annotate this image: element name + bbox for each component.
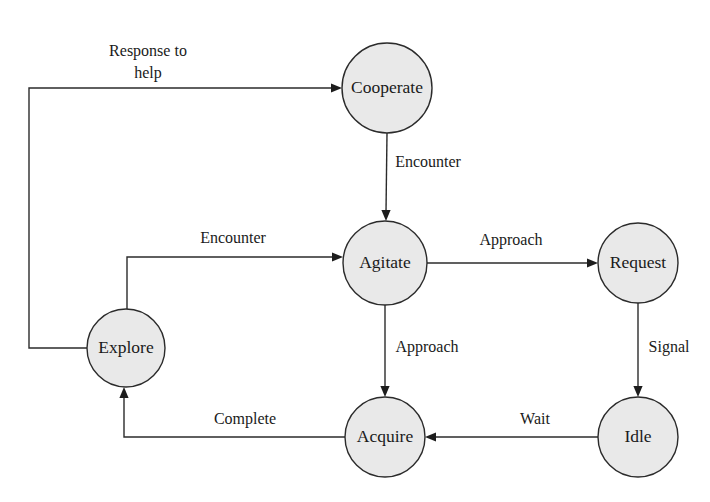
state-transition-diagram: CooperateAgitateRequestExploreAcquireIdl… [0, 0, 710, 502]
state-node-acquire[interactable]: Acquire [345, 397, 425, 477]
arrowhead-icon [587, 258, 598, 267]
arrowhead-icon [633, 386, 642, 397]
edge-label-agitate-to-acquire: Approach [395, 338, 458, 356]
arrowhead-icon [119, 387, 128, 398]
state-node-label-agitate: Agitate [359, 252, 411, 272]
arrowhead-icon [332, 252, 343, 261]
edge-request-to-idle [633, 303, 642, 397]
state-node-idle[interactable]: Idle [598, 397, 678, 477]
state-diagram-canvas: CooperateAgitateRequestExploreAcquireIdl… [0, 0, 710, 502]
arrowhead-icon [380, 386, 389, 397]
state-node-agitate[interactable]: Agitate [343, 221, 427, 305]
edges-layer [29, 83, 643, 441]
edge-label-cooperate-to-agitate: Encounter [395, 153, 461, 170]
edge-idle-to-acquire [425, 432, 598, 441]
state-node-label-explore: Explore [98, 337, 154, 357]
edge-label-explore-to-agitate: Encounter [200, 229, 266, 246]
state-node-label-acquire: Acquire [357, 426, 414, 446]
edge-label-acquire-to-explore: Complete [214, 410, 276, 428]
edge-cooperate-to-agitate [381, 133, 390, 221]
state-node-label-request: Request [610, 252, 667, 272]
arrowhead-icon [331, 83, 342, 92]
arrowhead-icon [425, 432, 436, 441]
state-node-explore[interactable]: Explore [87, 309, 165, 387]
edge-label-request-to-idle: Signal [649, 338, 690, 356]
edge-explore-to-cooperate [29, 83, 342, 348]
state-node-cooperate[interactable]: Cooperate [342, 43, 432, 133]
edge-agitate-to-acquire [380, 305, 389, 397]
edge-path-explore-to-agitate [127, 257, 334, 309]
edge-label-explore-to-cooperate: Response tohelp [109, 42, 187, 82]
arrowhead-icon [381, 210, 390, 221]
edge-label-agitate-to-request: Approach [479, 231, 542, 249]
edge-path-explore-to-cooperate [29, 88, 334, 348]
state-node-request[interactable]: Request [598, 223, 678, 303]
state-node-label-idle: Idle [624, 426, 651, 446]
edge-path-cooperate-to-agitate [386, 133, 387, 212]
edge-agitate-to-request [427, 258, 598, 267]
edge-label-idle-to-acquire: Wait [520, 410, 550, 427]
state-node-label-cooperate: Cooperate [351, 77, 423, 97]
edge-explore-to-agitate [127, 252, 343, 309]
